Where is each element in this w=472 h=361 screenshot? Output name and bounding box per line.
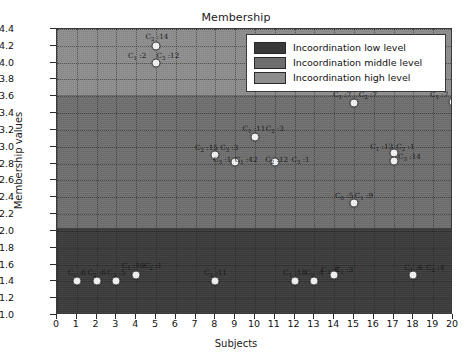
x-tick-mark — [353, 314, 354, 319]
data-point-label: C3 :1 — [213, 155, 231, 165]
y-tick-label: 1.4 — [0, 275, 14, 286]
y-tick-label: 1.6 — [0, 258, 14, 269]
x-tick-mark — [155, 314, 156, 319]
y-tick-label: 3.8 — [0, 73, 14, 84]
legend-item-middle: Incoordination middle level — [254, 55, 438, 70]
y-tick-label: 1.8 — [0, 241, 14, 252]
legend-label: Incoordination high level — [293, 72, 410, 83]
data-point-label: C2 :1 — [144, 261, 162, 271]
legend-swatch-icon — [254, 57, 286, 69]
x-tick-mark — [294, 314, 295, 319]
legend-label: Incoordination middle level — [293, 57, 422, 68]
legend-item-low: Incoordination low level — [254, 40, 438, 55]
data-point — [449, 98, 453, 107]
y-tick-label: 3.4 — [0, 107, 14, 118]
x-tick-mark — [333, 314, 334, 319]
x-tick-mark — [195, 314, 196, 319]
data-point-label: C1 :18 — [283, 268, 306, 278]
data-point-label: C0 :5 — [335, 191, 353, 201]
data-point-label: C1 :10 — [122, 261, 145, 271]
x-tick-mark — [56, 314, 57, 319]
data-point-label: C1 :2 — [128, 51, 146, 61]
data-point-label: C2 :12 — [265, 155, 288, 165]
x-tick-mark — [412, 314, 413, 319]
x-tick-mark — [313, 314, 314, 319]
x-tick-mark — [373, 314, 374, 319]
data-point — [152, 41, 161, 50]
data-point — [389, 157, 398, 166]
y-tick-label: 2.2 — [0, 208, 14, 219]
data-point-label: C3 :14 — [398, 152, 421, 162]
data-point-label: C2 :1 — [396, 142, 414, 152]
data-point — [132, 271, 141, 280]
data-point-label: C1 :3 — [335, 264, 353, 274]
data-point-label: C1 :42 — [235, 155, 258, 165]
data-point-label: C3 :1 — [291, 155, 309, 165]
y-axis-label: Membership values — [13, 71, 24, 251]
chart-title: Membership — [0, 11, 472, 24]
data-point-label: C1 :6 — [68, 268, 86, 278]
x-tick-mark — [274, 314, 275, 319]
gridline-vertical — [176, 29, 177, 313]
y-tick-label: 2.0 — [0, 224, 14, 235]
x-tick-mark — [452, 314, 453, 319]
legend-item-high: Incoordination high level — [254, 70, 438, 85]
data-point-label: C2 :14 — [146, 32, 169, 42]
membership-chart-figure: Membership Membership values Subjects 1.… — [0, 0, 472, 361]
legend: Incoordination low levelIncoordination m… — [246, 34, 446, 92]
x-tick-mark — [76, 314, 77, 319]
data-point-label: C2 :3 — [266, 124, 284, 134]
x-tick-mark — [115, 314, 116, 319]
gridline-vertical — [235, 29, 236, 313]
data-point — [350, 99, 359, 108]
x-tick-mark — [135, 314, 136, 319]
x-tick-label: 20 — [439, 318, 465, 329]
x-tick-mark — [432, 314, 433, 319]
data-point-label: C2 :11 — [204, 268, 227, 278]
x-axis-label: Subjects — [0, 338, 472, 349]
y-tick-label: 2.8 — [0, 157, 14, 168]
data-point-label: C1 :13 — [370, 142, 393, 152]
legend-label: Incoordination low level — [293, 42, 406, 53]
data-point-label: C1 :11 — [243, 124, 266, 134]
data-point-label: C2 :15 — [195, 142, 218, 152]
y-tick-label: 4.4 — [0, 23, 14, 34]
data-point-label: C2 :4 — [426, 263, 444, 273]
y-tick-label: 2.6 — [0, 174, 14, 185]
gridline-vertical — [57, 29, 58, 313]
x-tick-mark — [214, 314, 215, 319]
x-tick-mark — [234, 314, 235, 319]
data-point-label: C1 :9 — [355, 191, 373, 201]
y-tick-label: 2.4 — [0, 191, 14, 202]
legend-swatch-icon — [254, 42, 286, 54]
gridline-vertical — [196, 29, 197, 313]
x-tick-mark — [96, 314, 97, 319]
data-point-label: C1 :6 — [404, 263, 422, 273]
legend-swatch-icon — [254, 72, 286, 84]
data-point-label: C3 :12 — [156, 51, 179, 61]
y-tick-label: 3.0 — [0, 140, 14, 151]
y-tick-label: 3.2 — [0, 123, 14, 134]
x-tick-mark — [175, 314, 176, 319]
y-tick-label: 1.2 — [0, 292, 14, 303]
data-point-label: C2 :6 — [87, 268, 105, 278]
legend-rows: Incoordination low levelIncoordination m… — [254, 40, 438, 85]
y-tick-label: 4.2 — [0, 39, 14, 50]
x-tick-mark — [393, 314, 394, 319]
y-tick-label: 1.0 — [0, 309, 14, 320]
x-tick-mark — [254, 314, 255, 319]
y-tick-label: 4.0 — [0, 56, 14, 67]
data-point-label: C3 :3 — [220, 142, 238, 152]
y-tick-label: 3.6 — [0, 90, 14, 101]
